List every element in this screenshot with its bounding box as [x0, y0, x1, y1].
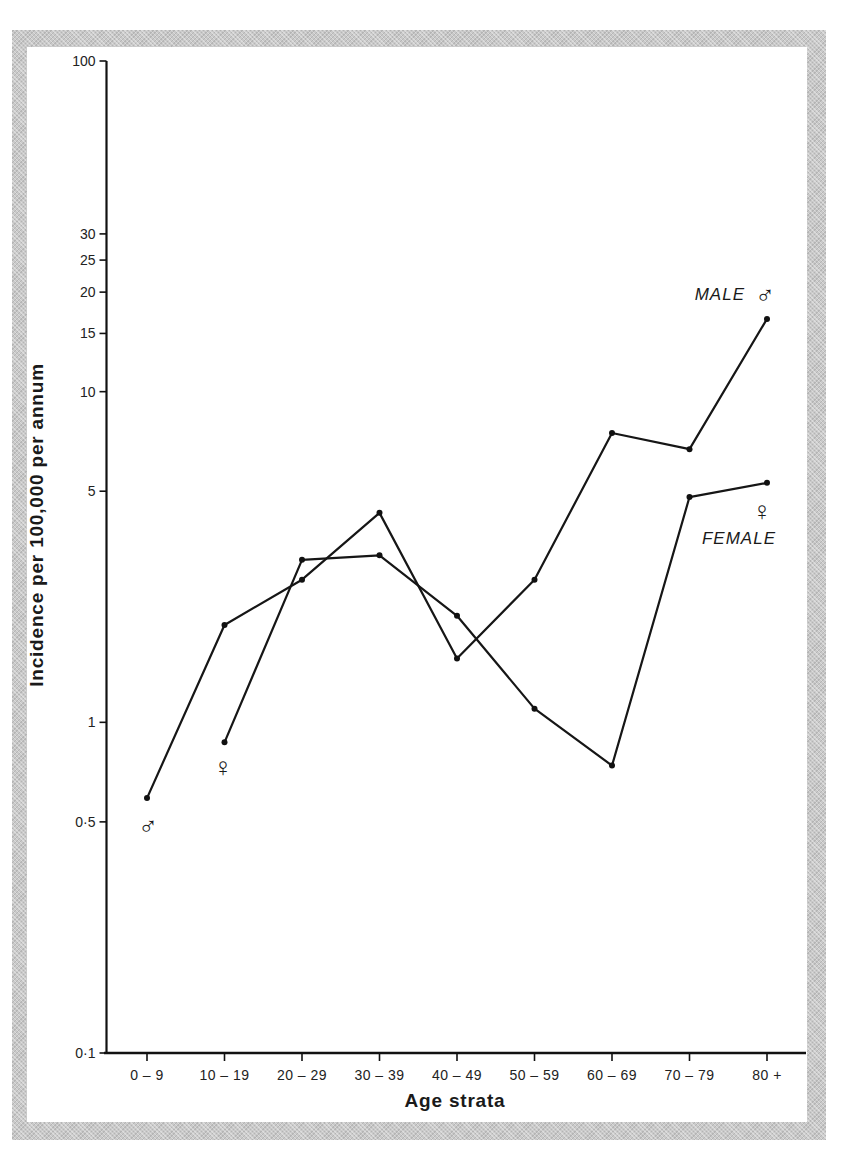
data-point [454, 613, 460, 619]
y-tick-label: 0·5 [75, 814, 95, 830]
y-tick-label: 20 [80, 284, 96, 300]
line-chart: 1003025201510510·50·1 0 – 910 – 1920 – 2… [0, 0, 845, 1154]
data-point [687, 446, 693, 452]
data-point [532, 706, 538, 712]
data-point [454, 655, 460, 661]
legend-male-label: MALE [695, 285, 745, 304]
legend-male-symbol-icon: ♂ [755, 279, 775, 309]
x-tick-label: 60 – 69 [587, 1067, 637, 1083]
data-point [377, 552, 383, 558]
data-point [609, 763, 615, 769]
data-point [299, 577, 305, 583]
series-male [144, 316, 770, 801]
data-point [609, 430, 615, 436]
female-symbol-icon: ♀ [213, 752, 233, 782]
x-tick-label: 10 – 19 [199, 1067, 249, 1083]
y-ticks: 1003025201510510·50·1 [72, 53, 106, 1061]
data-point [532, 577, 538, 583]
legend-female-label: FEMALE [702, 529, 776, 548]
data-point [144, 795, 150, 801]
data-point [299, 557, 305, 563]
y-axis: 1003025201510510·50·1 [72, 53, 106, 1061]
y-tick-label: 100 [72, 53, 96, 69]
x-tick-label: 30 – 39 [354, 1067, 404, 1083]
y-axis-title: Incidence per 100,000 per annum [26, 363, 47, 687]
series-female [222, 480, 771, 769]
y-tick-label: 25 [80, 252, 96, 268]
y-tick-label: 1 [88, 714, 96, 730]
y-tick-label: 30 [80, 226, 96, 242]
x-tick-label: 70 – 79 [664, 1067, 714, 1083]
y-tick-label: 15 [80, 325, 96, 341]
y-tick-label: 5 [88, 483, 96, 499]
data-point [687, 494, 693, 500]
x-ticks: 0 – 910 – 1920 – 2930 – 3940 – 4950 – 59… [130, 1053, 782, 1083]
data-point [377, 510, 383, 516]
series-layer [144, 316, 770, 801]
male-symbol-icon: ♂ [138, 810, 158, 840]
data-point [222, 739, 228, 745]
x-axis-title: Age strata [405, 1090, 506, 1111]
legend-female-symbol-icon: ♀ [752, 496, 772, 526]
data-point [222, 622, 228, 628]
series-line-female [225, 483, 768, 766]
y-tick-label: 10 [80, 384, 96, 400]
data-point [764, 316, 770, 322]
legend-female: ♀ FEMALE [702, 496, 776, 548]
x-axis: 0 – 910 – 1920 – 2930 – 3940 – 4950 – 59… [104, 1053, 806, 1083]
legend-male: MALE ♂ [695, 279, 775, 309]
x-tick-label: 0 – 9 [130, 1067, 164, 1083]
x-tick-label: 50 – 59 [509, 1067, 559, 1083]
series-line-male [147, 319, 767, 798]
data-point [764, 480, 770, 486]
x-tick-label: 20 – 29 [277, 1067, 327, 1083]
x-tick-label: 40 – 49 [432, 1067, 482, 1083]
y-tick-label: 0·1 [75, 1045, 95, 1061]
x-tick-label: 80 + [752, 1067, 782, 1083]
